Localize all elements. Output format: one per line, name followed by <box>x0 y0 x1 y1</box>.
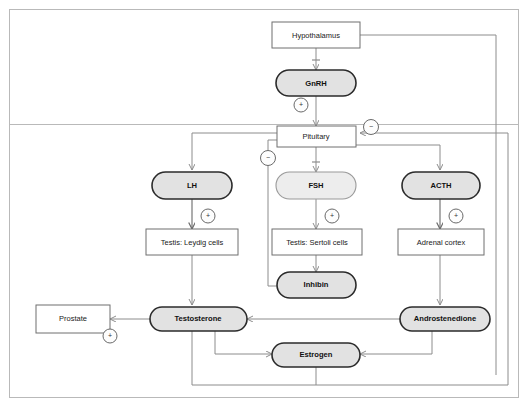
outer-frame-top <box>10 10 519 125</box>
edge-testosterone-estrogen <box>215 331 272 354</box>
sign-sertoli-plus-label: + <box>330 212 334 219</box>
edge-androstenedione-estrogen <box>360 331 432 354</box>
sign-adrenal-plus-label: + <box>454 212 458 219</box>
node-fsh-label: FSH <box>308 181 323 190</box>
node-estrogen-label: Estrogen <box>300 350 333 359</box>
node-inhibin-label: Inhibin <box>304 280 329 289</box>
node-lh-label: LH <box>187 181 197 190</box>
node-pituitary-label: Pituitary <box>302 132 329 141</box>
node-gnrh-label: GnRH <box>305 79 327 88</box>
node-androstenedione-label: Androstenedione <box>414 314 476 323</box>
node-hypothalamus-label: Hypothalamus <box>292 31 340 40</box>
edge-pituitary-acth <box>356 145 440 170</box>
endocrine-axis-diagram: Hypothalamus GnRH Pituitary LH FSH ACTH … <box>0 0 528 407</box>
sign-prostate-plus-label: + <box>108 332 112 339</box>
node-testosterone-label: Testosterone <box>174 314 221 323</box>
node-sertoli-cells-label: Testis: Sertoli cells <box>286 238 348 247</box>
node-leydig-cells-label: Testis: Leydig cells <box>161 238 224 247</box>
node-acth-label: ACTH <box>430 181 451 190</box>
outer-frame-bottom <box>10 125 519 398</box>
node-adrenal-cortex-label: Adrenal cortex <box>417 238 466 247</box>
node-prostate-label: Prostate <box>59 314 87 323</box>
sign-pituitary-minus-left-label: − <box>266 154 270 161</box>
sign-leydig-plus-label: + <box>206 212 210 219</box>
diagram-canvas: Hypothalamus GnRH Pituitary LH FSH ACTH … <box>0 0 528 407</box>
sign-pituitary-minus-right-label: − <box>369 123 373 130</box>
sign-gnrh-plus-label: + <box>299 101 303 108</box>
